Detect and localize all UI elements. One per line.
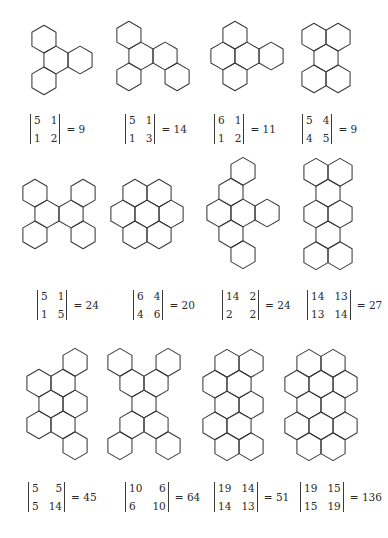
matrix-entry: 4 (137, 309, 144, 320)
hexagonal-system-2 (117, 21, 189, 91)
matrix-entry: 1 (235, 115, 242, 126)
matrix-entry: 5 (49, 483, 62, 494)
hexagon-ring (231, 157, 255, 185)
matrix-entry: 19 (327, 501, 340, 512)
hexagon-ring (285, 370, 309, 398)
hexagon-ring (108, 348, 132, 376)
hexagon-ring (304, 200, 328, 228)
hexagon-ring (203, 412, 227, 440)
determinant-matrix: 19141413 (214, 482, 258, 512)
hexagon-ring (27, 369, 51, 397)
matrix-entry: 6 (129, 501, 142, 512)
hexagon-ring (129, 42, 153, 70)
determinant-matrix: 5113 (125, 114, 155, 144)
hexagon-ring (304, 158, 328, 186)
hexagon-ring (51, 411, 75, 439)
hexagon-ring (231, 199, 255, 227)
matrix-entry: 2 (235, 133, 242, 144)
matrix-entry: 3 (146, 133, 153, 144)
hexagon-ring (32, 25, 56, 53)
determinant-value: = 136 (350, 492, 382, 503)
hexagon-ring (111, 200, 135, 228)
hexagon-ring (44, 46, 68, 74)
determinant-matrix: 5115 (37, 290, 67, 320)
hexagonal-system-9 (27, 348, 87, 459)
matrix-entry: 13 (334, 291, 347, 302)
hexagonal-system-6 (111, 179, 183, 249)
matrix-entry: 2 (51, 133, 58, 144)
determinant-10: 106610= 64 (125, 482, 200, 512)
determinant-matrix: 5112 (30, 114, 60, 144)
hexagon-ring (159, 200, 183, 228)
hexagon-ring (59, 200, 83, 228)
hexagon-ring (227, 412, 251, 440)
hexagon-ring (231, 241, 255, 269)
hexagon-ring (215, 433, 239, 461)
hexagon-ring (259, 42, 283, 70)
determinant-7: 14222= 24 (222, 290, 291, 320)
hexagon-ring (316, 221, 340, 249)
hexagon-ring (51, 369, 75, 397)
hexagon-ring (297, 349, 321, 377)
hexagon-ring (239, 433, 263, 461)
hexagonal-system-10 (108, 348, 180, 459)
hexagon-ring (108, 432, 132, 460)
determinant-matrix: 19151519 (300, 482, 344, 512)
determinant-8: 14131314= 27 (307, 290, 382, 320)
hexagon-ring (153, 42, 177, 70)
hexagonal-system-8 (304, 158, 352, 269)
hexagon-ring (71, 221, 95, 249)
determinant-value: = 64 (175, 492, 201, 503)
hexagon-ring (203, 370, 227, 398)
determinant-2: 5113= 14 (125, 114, 187, 144)
hexagon-ring (63, 348, 87, 376)
hexagon-ring (309, 412, 333, 440)
determinant-matrix: 6446 (133, 290, 163, 320)
matrix-entry: 10 (152, 501, 165, 512)
hexagon-ring (117, 21, 141, 49)
hexagon-ring (123, 221, 147, 249)
hexagon-ring (207, 199, 231, 227)
determinant-value: = 27 (357, 300, 383, 311)
hexagon-ring (333, 412, 357, 440)
hexagon-ring (309, 370, 333, 398)
matrix-entry: 1 (146, 115, 153, 126)
matrix-entry: 10 (129, 483, 142, 494)
hexagon-ring (223, 21, 247, 49)
hexagon-ring (326, 23, 350, 51)
determinant-value: = 20 (169, 300, 195, 311)
matrix-entry: 13 (241, 501, 254, 512)
matrix-entry: 5 (41, 291, 48, 302)
determinant-5: 5115= 24 (37, 290, 99, 320)
determinant-value: = 9 (338, 124, 357, 135)
hexagon-ring (304, 242, 328, 270)
hexagon-ring (120, 369, 144, 397)
matrix-entry: 5 (323, 133, 330, 144)
hexagon-ring (328, 200, 352, 228)
determinant-value: = 11 (250, 124, 276, 135)
matrix-entry: 19 (304, 483, 317, 494)
hexagon-ring (39, 390, 63, 418)
hexagon-ring (32, 67, 56, 95)
hexagon-ring (316, 179, 340, 207)
hexagon-ring (328, 158, 352, 186)
hexagonal-system-7 (207, 157, 279, 268)
hexagon-ring (132, 390, 156, 418)
determinant-12: 19151519= 136 (300, 482, 382, 512)
hexagon-ring (117, 63, 141, 91)
hexagon-ring (211, 42, 235, 70)
hexagon-ring (223, 63, 247, 91)
determinant-matrix: 5445 (302, 114, 332, 144)
hexagon-ring (147, 179, 171, 207)
determinant-value: = 14 (161, 124, 187, 135)
hexagon-ring (235, 42, 259, 70)
hexagon-ring (35, 200, 59, 228)
matrix-entry: 6 (152, 483, 165, 494)
matrix-entry: 15 (304, 501, 317, 512)
matrix-entry: 14 (226, 291, 239, 302)
hexagon-ring (165, 63, 189, 91)
matrix-entry: 6 (137, 291, 144, 302)
matrix-entry: 5 (129, 115, 136, 126)
matrix-entry: 14 (241, 483, 254, 494)
determinant-value: = 45 (71, 492, 97, 503)
